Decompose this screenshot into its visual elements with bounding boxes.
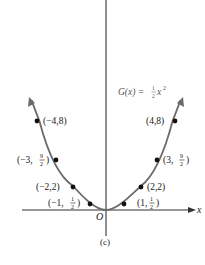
point-neg1-0.5 (88, 202, 93, 207)
point-neg4-8 (35, 119, 40, 124)
svg-text:(−1,: (−1, (48, 198, 64, 209)
svg-text:): ) (77, 198, 80, 209)
label-1-1-2: (1, 1 2 ) (137, 196, 159, 210)
svg-text:): ) (156, 198, 159, 209)
label-2-2: (2,2) (147, 182, 165, 193)
label-neg1-1-2: (−1, 1 2 ) (48, 196, 80, 210)
svg-text:1: 1 (152, 85, 155, 91)
svg-text:(3,: (3, (163, 155, 173, 166)
label-neg2-2: (−2,2) (36, 182, 60, 193)
figure-caption: (c) (100, 237, 110, 247)
svg-text:2: 2 (152, 93, 155, 99)
label-3-9-2: (3, 9 2 ) (163, 153, 189, 167)
svg-text:2: 2 (150, 204, 153, 210)
svg-text:): ) (186, 155, 189, 166)
label-neg4-8: (−4,8) (43, 116, 67, 127)
svg-text:2: 2 (163, 85, 166, 91)
svg-text:9: 9 (180, 153, 183, 159)
function-label: G(x) = 1 2 x 2 (118, 85, 166, 99)
svg-text:2: 2 (180, 161, 183, 167)
label-neg3-9-2: (−3, 9 2 ) (17, 153, 49, 167)
point-3-4.5 (155, 158, 160, 163)
point-4-8 (173, 119, 178, 124)
svg-text:1: 1 (150, 196, 153, 202)
svg-text:1: 1 (71, 196, 74, 202)
svg-text:(−3,: (−3, (17, 155, 33, 166)
point-neg2-2 (71, 185, 76, 190)
point-neg3-4.5 (54, 158, 59, 163)
svg-text:(1,: (1, (137, 198, 147, 209)
svg-text:2: 2 (40, 161, 43, 167)
x-axis-arrow-icon (188, 207, 196, 213)
parabola-graph: x O (−4,8) (4,8) (−3, 9 2 ) (3, 9 2 ) (−… (0, 0, 205, 265)
svg-text:2: 2 (71, 204, 74, 210)
x-axis-label: x (196, 204, 202, 215)
point-2-2 (139, 185, 144, 190)
svg-text:x: x (156, 87, 162, 97)
label-4-8: (4,8) (146, 116, 164, 127)
origin-label: O (96, 211, 103, 222)
svg-text:): ) (46, 155, 49, 166)
svg-text:G(x) =: G(x) = (118, 87, 144, 98)
svg-text:9: 9 (40, 153, 43, 159)
point-1-0.5 (122, 202, 127, 207)
